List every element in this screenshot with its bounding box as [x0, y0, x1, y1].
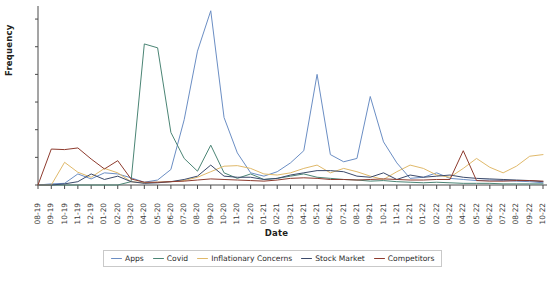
x-tick-label: 07-20 — [180, 203, 187, 224]
x-tick-label: 12-20 — [246, 203, 253, 224]
x-tick-label: 01-22 — [419, 203, 426, 224]
x-tick-label: 11-19 — [73, 203, 80, 224]
x-tick-label: 04-21 — [299, 203, 306, 224]
x-axis-title: Date — [0, 228, 553, 238]
x-tick-label: 03-21 — [286, 203, 293, 224]
x-tick-label: 07-22 — [499, 203, 506, 224]
chart-legend: AppsCovidInflationary ConcernsStock Mark… — [103, 250, 442, 267]
line-chart: Frequency 050100150200250300 08-1909-191… — [0, 0, 553, 285]
legend-item-covid[interactable]: Covid — [153, 254, 188, 263]
legend-label: Stock Market — [315, 254, 365, 263]
legend-item-inflationary-concerns[interactable]: Inflationary Concerns — [197, 254, 292, 263]
x-tick-label: 02-20 — [113, 203, 120, 224]
axis-lines — [38, 6, 547, 185]
x-tick-label: 08-21 — [353, 203, 360, 224]
x-tick-label: 04-20 — [140, 203, 147, 224]
legend-item-apps[interactable]: Apps — [111, 254, 144, 263]
x-tick-label: 09-21 — [366, 203, 373, 224]
x-tick-label: 10-21 — [379, 203, 386, 224]
x-tick-label: 06-20 — [166, 203, 173, 224]
legend-label: Inflationary Concerns — [211, 254, 292, 263]
plot-area — [0, 0, 553, 285]
x-tick-label: 12-21 — [406, 203, 413, 224]
x-tick-label: 12-19 — [87, 203, 94, 224]
x-tick-label: 05-21 — [313, 203, 320, 224]
x-tick-label: 07-21 — [339, 203, 346, 224]
x-tick-label: 05-22 — [472, 203, 479, 224]
x-tick-label: 06-21 — [326, 203, 333, 224]
x-tick-label: 05-20 — [153, 203, 160, 224]
x-tick-label: 02-22 — [432, 203, 439, 224]
legend-item-stock-market[interactable]: Stock Market — [301, 254, 365, 263]
x-tick-label: 04-22 — [459, 203, 466, 224]
x-tick-label: 03-20 — [127, 203, 134, 224]
series-line-stock-market — [38, 165, 543, 185]
legend-swatch-icon — [374, 258, 385, 260]
legend-label: Competitors — [388, 254, 435, 263]
x-tick-label: 11-21 — [392, 203, 399, 224]
x-tick-label: 03-22 — [446, 203, 453, 224]
x-tick-label: 06-22 — [485, 203, 492, 224]
legend-label: Apps — [125, 254, 144, 263]
legend-label: Covid — [167, 254, 188, 263]
x-tick-label: 08-22 — [512, 203, 519, 224]
x-tick-label: 08-20 — [193, 203, 200, 224]
x-tick-label: 01-20 — [100, 203, 107, 224]
legend-item-competitors[interactable]: Competitors — [374, 254, 435, 263]
x-tick-label: 09-20 — [206, 203, 213, 224]
x-tick-label: 10-19 — [60, 203, 67, 224]
x-tick-label: 02-21 — [273, 203, 280, 224]
legend-swatch-icon — [197, 258, 208, 260]
x-tick-label: 10-20 — [220, 203, 227, 224]
x-tick-label: 08-19 — [34, 203, 41, 224]
x-axis-ticks: 08-1909-1910-1911-1912-1901-2002-2003-20… — [0, 185, 553, 227]
x-tick-label: 01-21 — [260, 203, 267, 224]
x-tick-label: 11-20 — [233, 203, 240, 224]
legend-swatch-icon — [111, 258, 122, 260]
legend-swatch-icon — [301, 258, 312, 260]
x-tick-label: 09-22 — [525, 203, 532, 224]
legend-swatch-icon — [153, 258, 164, 260]
x-tick-label: 10-22 — [539, 203, 546, 224]
series-line-covid — [38, 44, 543, 185]
x-tick-label: 09-19 — [47, 203, 54, 224]
